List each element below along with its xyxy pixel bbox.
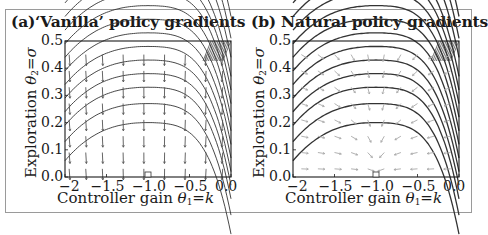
panel-a-title: (a)‘Vanilla’ policy gradients — [11, 12, 245, 31]
gradient-arrow — [86, 71, 87, 82]
gradient-arrow — [335, 55, 340, 60]
y-tick-label: 0.4 — [269, 60, 291, 74]
optimum-marker — [373, 172, 379, 177]
y-tick-label: 0.2 — [269, 115, 291, 129]
panel-a-ylabel: Exploration θ2=σ — [22, 47, 40, 178]
y-tick-label: 0.5 — [41, 33, 63, 47]
gradient-arrow — [86, 136, 87, 147]
gradient-arrow — [205, 136, 206, 147]
y-tick-label: 0.5 — [269, 33, 291, 47]
gradient-arrow — [380, 153, 385, 158]
x-tick-label: 0.0 — [215, 179, 237, 193]
gradient-arrow — [86, 55, 87, 66]
x-tick-label: −0.5 — [402, 179, 436, 193]
y-tick-label: 0.1 — [41, 142, 63, 156]
optimum-marker — [145, 172, 151, 177]
gradient-arrow — [412, 87, 417, 91]
gradient-arrow — [335, 71, 340, 76]
y-tick-label: 0.0 — [269, 169, 291, 183]
gradient-arrow — [86, 153, 87, 164]
gradient-arrow — [412, 71, 417, 76]
y-tick-label: 0.0 — [41, 169, 63, 183]
y-tick-label: 0.1 — [269, 142, 291, 156]
gradient-arrow — [86, 87, 87, 98]
gradient-arrow — [205, 104, 206, 115]
x-tick-label: −0.5 — [174, 179, 208, 193]
gradient-arrow — [205, 71, 206, 82]
x-tick-label: −1.5 — [319, 179, 353, 193]
gradient-arrow — [318, 55, 324, 59]
gradient-arrow — [205, 169, 206, 180]
y-tick-label: 0.4 — [41, 60, 63, 74]
y-tick-label: 0.3 — [41, 87, 63, 101]
x-tick-label: −1.5 — [91, 179, 125, 193]
panel-b-ylabel: Exploration θ2=σ — [250, 47, 268, 178]
panel-a-plot — [65, 41, 231, 177]
y-tick-label: 0.3 — [269, 87, 291, 101]
gradient-arrow — [205, 55, 206, 66]
y-tick-label: 0.2 — [41, 115, 63, 129]
x-tick-label: −1.0 — [360, 179, 394, 193]
x-tick-label: −1.0 — [132, 179, 166, 193]
gradient-arrow — [205, 120, 206, 131]
gradient-arrow — [368, 153, 373, 158]
gradient-arrow — [335, 87, 340, 91]
panel-b-plot — [293, 41, 459, 177]
gradient-arrow — [205, 153, 206, 164]
gradient-arrow — [205, 87, 206, 98]
